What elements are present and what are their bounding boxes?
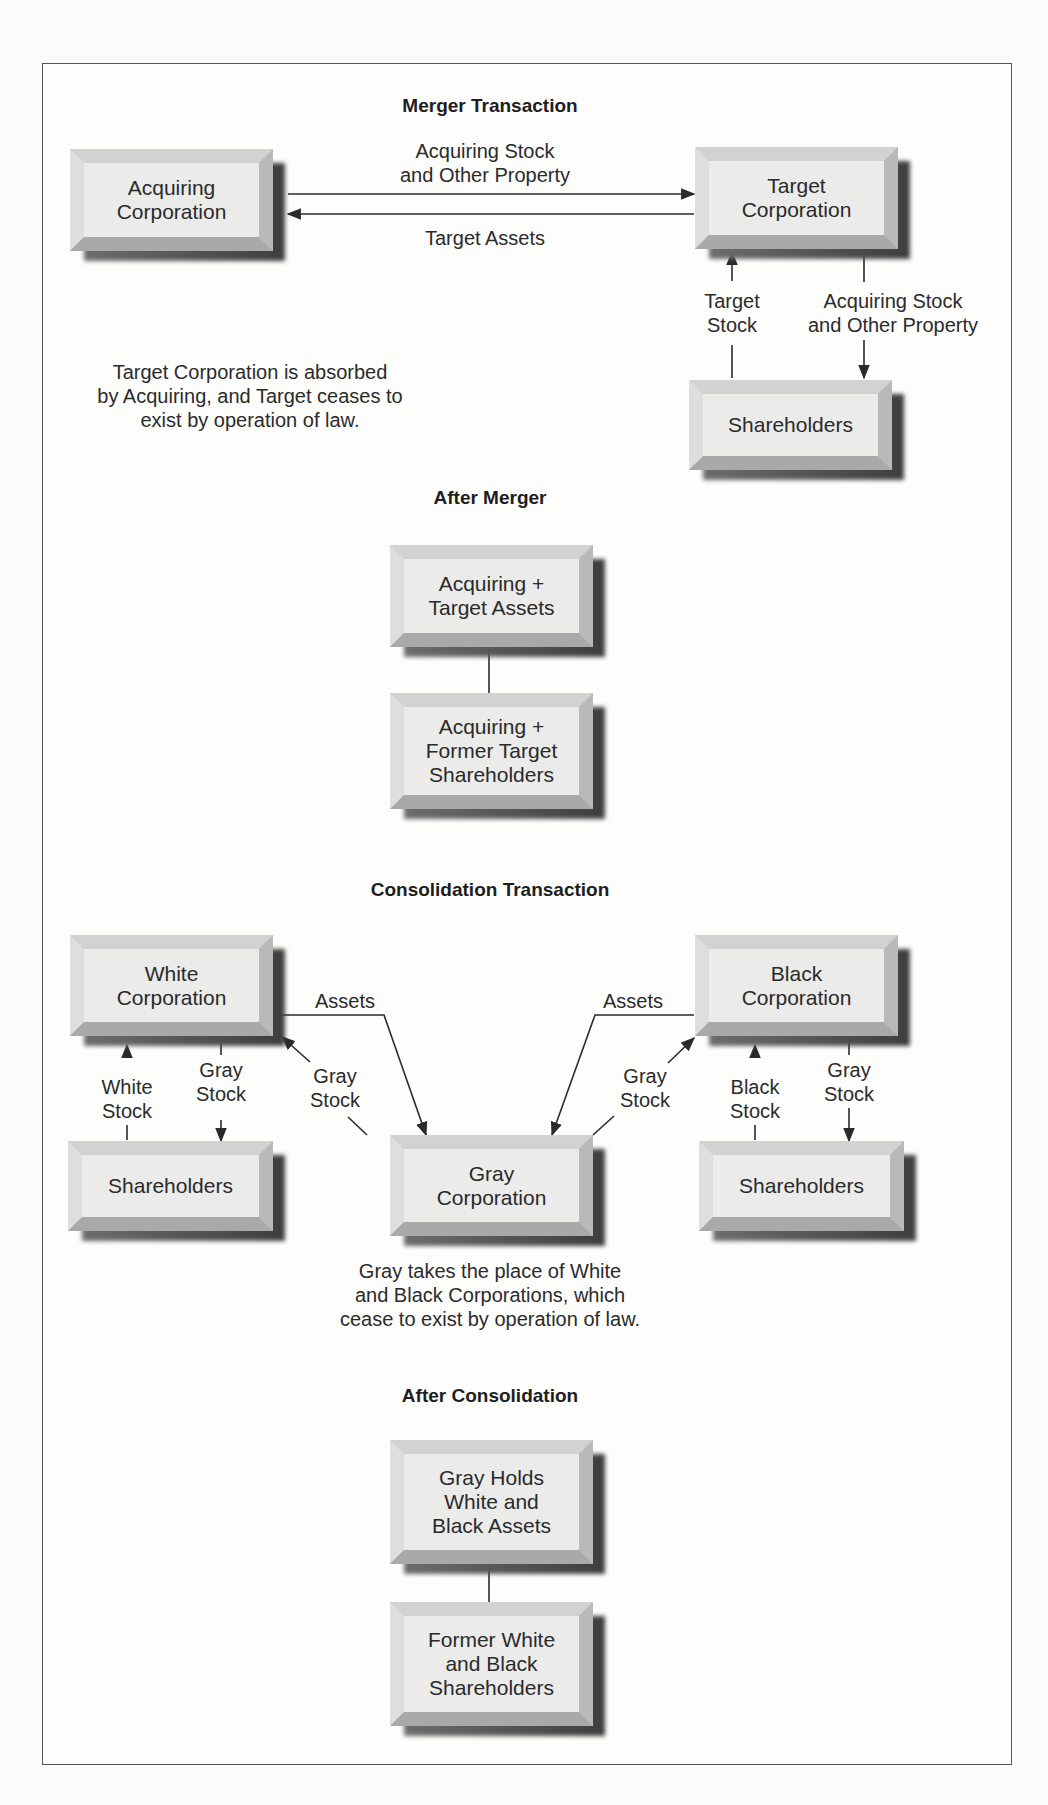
box-black-shareholders: Shareholders <box>699 1141 904 1231</box>
label-acquiring-stock-property-down: Acquiring Stock and Other Property <box>788 289 998 337</box>
box-gray-corporation: Gray Corporation <box>390 1135 593 1236</box>
box-label: Black Corporation <box>709 949 884 1022</box>
box-target-shareholders: Shareholders <box>689 380 892 470</box>
note-merger: Target Corporation is absorbed by Acquir… <box>85 360 415 432</box>
box-black-corporation: Black Corporation <box>695 935 898 1036</box>
box-label: Shareholders <box>703 394 878 456</box>
box-target-corporation: Target Corporation <box>695 147 898 249</box>
box-gray-holds-assets: Gray Holds White and Black Assets <box>390 1440 593 1564</box>
box-label: Shareholders <box>713 1155 890 1217</box>
box-label: Gray Holds White and Black Assets <box>404 1454 579 1550</box>
label-acquiring-stock-property: Acquiring Stock and Other Property <box>370 139 600 187</box>
label-black-stock: Black Stock <box>720 1075 790 1123</box>
box-label: Shareholders <box>82 1155 259 1217</box>
label-black-assets: Assets <box>588 989 678 1013</box>
label-white-gray-stock: Gray Stock <box>186 1058 256 1106</box>
note-consolidation: Gray takes the place of White and Black … <box>310 1259 670 1331</box>
box-acquiring-target-assets: Acquiring + Target Assets <box>390 545 593 647</box>
label-target-assets: Target Assets <box>370 226 600 250</box>
box-acquiring-corporation: Acquiring Corporation <box>70 149 273 251</box>
box-label: Former White and Black Shareholders <box>404 1616 579 1712</box>
arrow-gray-stock-black <box>668 1038 694 1063</box>
box-former-white-black-shareholders: Former White and Black Shareholders <box>390 1602 593 1726</box>
line-gray-stock-white-lower <box>348 1117 367 1135</box>
heading-consolidation-transaction: Consolidation Transaction <box>300 879 680 901</box>
heading-merger-transaction: Merger Transaction <box>330 95 650 117</box>
heading-after-consolidation: After Consolidation <box>330 1385 650 1407</box>
box-label: Acquiring Corporation <box>84 163 259 237</box>
label-gray-stock-to-white: Gray Stock <box>300 1064 370 1112</box>
arrow-gray-stock-white <box>282 1037 310 1062</box>
box-white-shareholders: Shareholders <box>68 1141 273 1231</box>
line-gray-stock-black-lower <box>593 1116 614 1135</box>
box-label: Target Corporation <box>709 161 884 235</box>
box-label: White Corporation <box>84 949 259 1022</box>
label-white-assets: Assets <box>300 989 390 1013</box>
box-label: Acquiring + Former Target Shareholders <box>404 707 579 795</box>
label-target-stock: Target Stock <box>682 289 782 337</box>
label-black-gray-stock: Gray Stock <box>814 1058 884 1106</box>
box-acquiring-former-target-shareholders: Acquiring + Former Target Shareholders <box>390 693 593 809</box>
box-white-corporation: White Corporation <box>70 935 273 1036</box>
heading-after-merger: After Merger <box>330 487 650 509</box>
label-gray-stock-to-black: Gray Stock <box>610 1064 680 1112</box>
box-label: Gray Corporation <box>404 1149 579 1222</box>
label-white-stock: White Stock <box>92 1075 162 1123</box>
box-label: Acquiring + Target Assets <box>404 559 579 633</box>
